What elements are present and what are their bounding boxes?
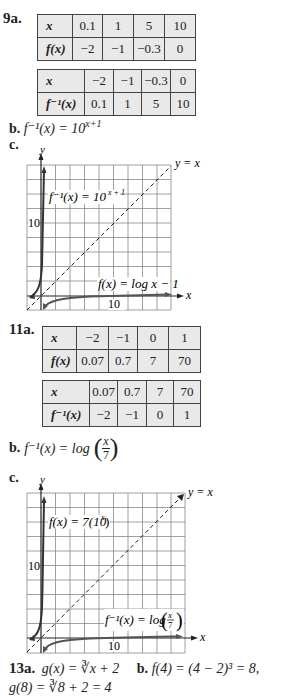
y-axis-label: y	[39, 473, 45, 485]
x-axis-label: x	[185, 288, 192, 302]
x-tick-label: 10	[108, 639, 120, 653]
curve-arrow-icon	[42, 496, 47, 503]
part-b-equation: f⁻¹(x) = log	[24, 440, 89, 457]
table-header-x: x	[43, 381, 90, 404]
problem-13-part-b-label: b.	[137, 661, 148, 676]
part-b-label: b.	[9, 440, 20, 456]
problem-13-line1: 13a. g(x) = ∛x + 2 b. f(4) = (4 − 2)³ = …	[9, 660, 259, 677]
table-cell: 1	[169, 327, 201, 350]
table-header-finv: f⁻¹(x)	[43, 404, 90, 427]
table-cell: −1	[109, 327, 138, 350]
table-cell: 7	[138, 350, 169, 373]
table-cell: 1	[174, 404, 201, 427]
table-cell: 0.7	[118, 381, 147, 404]
curve2-frac-num: x	[167, 610, 172, 620]
curve1-label: f(x) = 7(10	[49, 514, 107, 529]
table-header-x: x	[43, 327, 77, 350]
x-axis-arrow-icon	[191, 636, 198, 641]
diag-label: y = x	[187, 485, 213, 499]
curve1-exponent: x + 1	[107, 188, 125, 197]
table-cell: 0.7	[109, 350, 138, 373]
problem-13-number: 13a.	[9, 660, 35, 676]
table-cell: 70	[169, 350, 201, 373]
table-cell: 70	[174, 381, 201, 404]
fraction-numerator: x	[102, 435, 109, 449]
curve-exponential	[30, 170, 44, 297]
right-paren: )	[110, 435, 119, 461]
curve2-frac-den: 7	[168, 620, 173, 630]
diag-label: y = x	[174, 156, 200, 170]
curve2-right-paren: )	[176, 609, 183, 632]
x-axis-label: x	[199, 630, 206, 644]
y-tick-label: 10	[28, 216, 40, 230]
table-header-fx: f(x)	[43, 350, 77, 373]
problem-11-number: 11a.	[9, 321, 34, 338]
problem-11-part-b: b. f⁻¹(x) = log ( x 7 )	[9, 435, 118, 461]
y-tick-label: 10	[28, 559, 40, 573]
problem-11-table-f: x −2 −1 0 1 f(x) 0.07 0.7 7 70	[42, 326, 201, 373]
diag-arrow-icon	[177, 494, 184, 501]
table-cell: 0.07	[77, 350, 109, 373]
curve2-label: f(x) = log x − 1	[98, 276, 179, 291]
y-axis-label: y	[39, 143, 45, 155]
problem-9-graph: f⁻¹(x) = 10 x + 1 f(x) = log x − 1 y x y…	[0, 0, 282, 320]
problem-13-line2: g(8) = ∛8 + 2 = 4	[9, 679, 112, 696]
curve-arrow-icon	[42, 166, 47, 173]
problem-11-graph: f(x) = 7(10 x ) f⁻¹(x) = log ( x 7 ) y x…	[0, 460, 282, 660]
x-tick-label: 10	[108, 297, 120, 311]
problem-13-part-b: f(4) = (4 − 2)³ = 8,	[152, 661, 260, 676]
table-cell: −2	[90, 404, 118, 427]
table-cell: 0	[147, 404, 174, 427]
table-cell: 7	[147, 381, 174, 404]
table-cell: −1	[118, 404, 147, 427]
problem-11-table-finv: x 0.07 0.7 7 70 f⁻¹(x) −2 −1 0 1	[42, 380, 201, 427]
x-axis-arrow-icon	[177, 294, 184, 299]
table-cell: 0	[138, 327, 169, 350]
problem-13-part-a: g(x) = ∛x + 2	[42, 661, 120, 676]
fraction: x 7	[102, 435, 109, 461]
left-paren: (	[94, 435, 103, 461]
table-cell: −2	[77, 327, 109, 350]
curve2-left-paren: (	[161, 609, 168, 632]
curve1-label: f⁻¹(x) = 10	[49, 189, 107, 204]
table-cell: 0.07	[90, 381, 118, 404]
curve2-label: f⁻¹(x) = log	[105, 612, 166, 627]
curve1-close-paren: )	[105, 514, 109, 529]
